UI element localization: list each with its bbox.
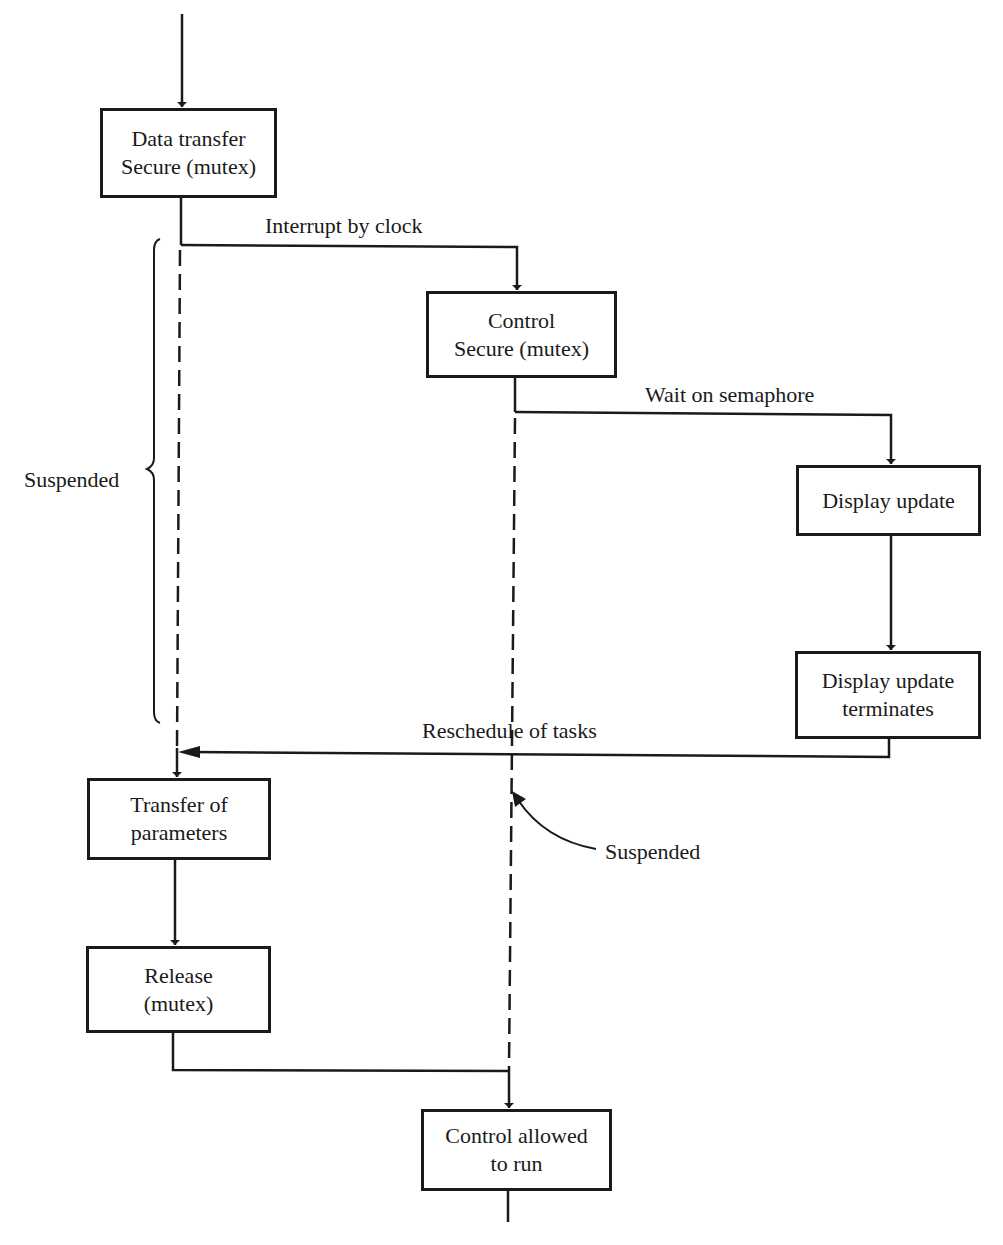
box-release: Release (mutex)	[86, 946, 271, 1033]
suspended-brace	[147, 239, 160, 723]
data-transfer-line2: Secure (mutex)	[121, 153, 256, 181]
label-suspended-right: Suspended	[605, 839, 700, 865]
release-line1: Release	[144, 962, 212, 990]
display-update-line1: Display update	[822, 487, 955, 515]
interrupt-arrow	[181, 245, 517, 290]
release-join-line	[173, 1032, 509, 1071]
control-allowed-line2: to run	[491, 1150, 543, 1178]
suspended-pointer	[518, 800, 596, 849]
box-display-update-terminates: Display update terminates	[795, 651, 981, 739]
control-line1: Control	[488, 307, 555, 335]
label-reschedule-of-tasks: Reschedule of tasks	[422, 718, 597, 744]
box-transfer-parameters: Transfer of parameters	[87, 778, 271, 860]
transfer-params-line2: parameters	[131, 819, 228, 847]
label-suspended-left: Suspended	[24, 467, 119, 493]
display-update-terminates-line2: terminates	[842, 695, 934, 723]
transfer-params-line1: Transfer of	[130, 791, 228, 819]
box-control: Control Secure (mutex)	[426, 291, 617, 378]
data-transfer-suspended-dashed	[177, 250, 180, 748]
control-allowed-line1: Control allowed	[445, 1122, 587, 1150]
release-line2: (mutex)	[144, 990, 214, 1018]
box-control-allowed: Control allowed to run	[421, 1109, 612, 1191]
data-transfer-line1: Data transfer	[131, 125, 245, 153]
label-wait-on-semaphore: Wait on semaphore	[645, 382, 814, 408]
box-display-update: Display update	[796, 465, 981, 536]
control-line2: Secure (mutex)	[454, 335, 589, 363]
box-data-transfer: Data transfer Secure (mutex)	[100, 108, 277, 198]
display-update-terminates-line1: Display update	[822, 667, 955, 695]
wait-arrow	[515, 412, 891, 464]
label-interrupt-by-clock: Interrupt by clock	[265, 213, 423, 239]
scheduling-diagram: Data transfer Secure (mutex) Control Sec…	[0, 0, 1003, 1245]
